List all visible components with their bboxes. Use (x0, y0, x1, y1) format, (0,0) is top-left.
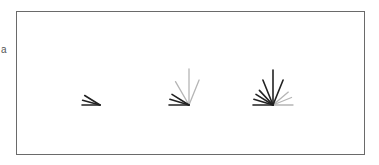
fan-glyphs-canvas (0, 0, 379, 165)
ray-line (189, 80, 199, 105)
glyph-stage-1 (82, 96, 100, 106)
glyph-stage-2 (169, 69, 199, 105)
glyph-stage-3 (253, 70, 293, 105)
